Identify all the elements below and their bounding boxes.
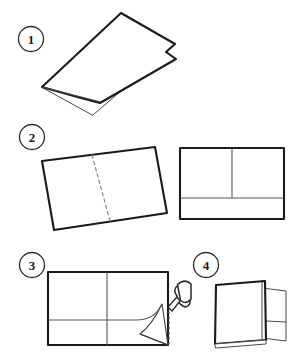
glue-drop — [167, 332, 169, 334]
glue-drop — [167, 342, 169, 344]
step-1-group: 1 — [19, 13, 177, 115]
step-3-badge: 3 — [20, 253, 45, 278]
step-2-group: 2 — [20, 125, 285, 231]
glue-bottle-icon — [167, 281, 191, 344]
step-badge-label: 4 — [203, 258, 210, 273]
step-3-illustration — [48, 272, 191, 345]
instruction-diagram: 1 2 — [0, 0, 293, 354]
step-badge-label: 3 — [29, 258, 36, 273]
step-1-badge: 1 — [19, 27, 44, 52]
step-1-illustration — [42, 13, 176, 115]
unfolded-sheet-outline — [42, 147, 167, 230]
step-4-badge: 4 — [194, 253, 219, 278]
glue-drop — [167, 337, 169, 339]
step-2-unfolded-sheet — [42, 147, 167, 230]
folded-sheet-top-leaf — [42, 13, 176, 103]
instruction-diagram-canvas: 1 2 — [0, 0, 293, 354]
step-2-badge: 2 — [20, 125, 45, 150]
step-badge-label: 2 — [29, 130, 36, 145]
glue-drop — [167, 327, 169, 329]
glue-bottle-nozzle — [168, 297, 180, 311]
step-4-group: 4 — [194, 253, 287, 349]
step-3-group: 3 — [20, 253, 192, 346]
glue-bottle-cap — [178, 281, 192, 302]
glue-drop — [167, 317, 169, 319]
step-4-illustration — [215, 281, 286, 348]
step-2-flat-folder — [180, 148, 284, 219]
step-badge-label: 1 — [28, 32, 35, 47]
glue-drop — [167, 322, 169, 324]
glue-drop — [167, 312, 169, 314]
folder-front-cover — [215, 281, 266, 344]
